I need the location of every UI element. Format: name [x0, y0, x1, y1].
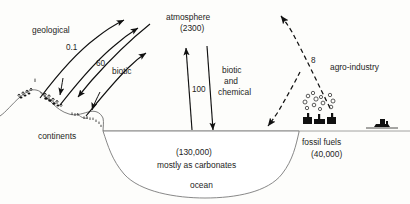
label-biotic-chemical-line2: and	[224, 76, 238, 86]
label-agro-industry: agro-industry	[330, 62, 380, 72]
label-ocean: ocean	[190, 180, 213, 190]
carbon-cycle-canvas: geological 0.1 60 biotic atmosphere (230…	[0, 0, 410, 204]
flux-value-biotic: 60	[96, 59, 106, 68]
flux-value-agro-industry: 8	[311, 56, 316, 65]
label-atmosphere: atmosphere	[166, 12, 211, 22]
value-ocean: (130,000)	[176, 147, 212, 157]
carbon-cycle-diagram: geological 0.1 60 biotic atmosphere (230…	[0, 0, 410, 204]
label-continents: continents	[38, 131, 76, 141]
value-fossil-fuels: (40,000)	[311, 149, 342, 159]
flux-value-geological: 0.1	[66, 43, 78, 52]
value-atmosphere: (2300)	[180, 23, 204, 33]
label-biotic-chemical-line1: biotic	[222, 65, 242, 75]
label-biotic: biotic	[112, 66, 132, 76]
label-biotic-chemical-line3: chemical	[218, 87, 251, 97]
label-geological: geological	[32, 25, 70, 35]
label-fossil-fuels: fossil fuels	[302, 137, 341, 147]
flux-value-ocean-exchange: 100	[192, 85, 206, 94]
note-ocean-carbonates: mostly as carbonates	[157, 160, 236, 170]
